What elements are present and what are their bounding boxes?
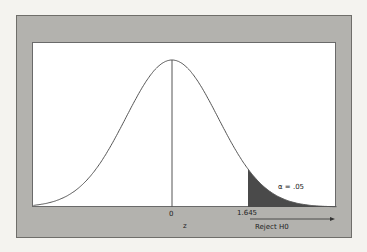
reject-arrow-head — [330, 217, 335, 221]
tick-label-zero: 0 — [169, 210, 173, 218]
axis-label-z: z — [183, 222, 187, 230]
tick-label-critical: 1.645 — [237, 209, 257, 217]
alpha-annotation: α = .05 — [278, 183, 304, 191]
reject-label: Reject H0 — [255, 223, 289, 231]
normal-curve-plot — [0, 0, 367, 252]
